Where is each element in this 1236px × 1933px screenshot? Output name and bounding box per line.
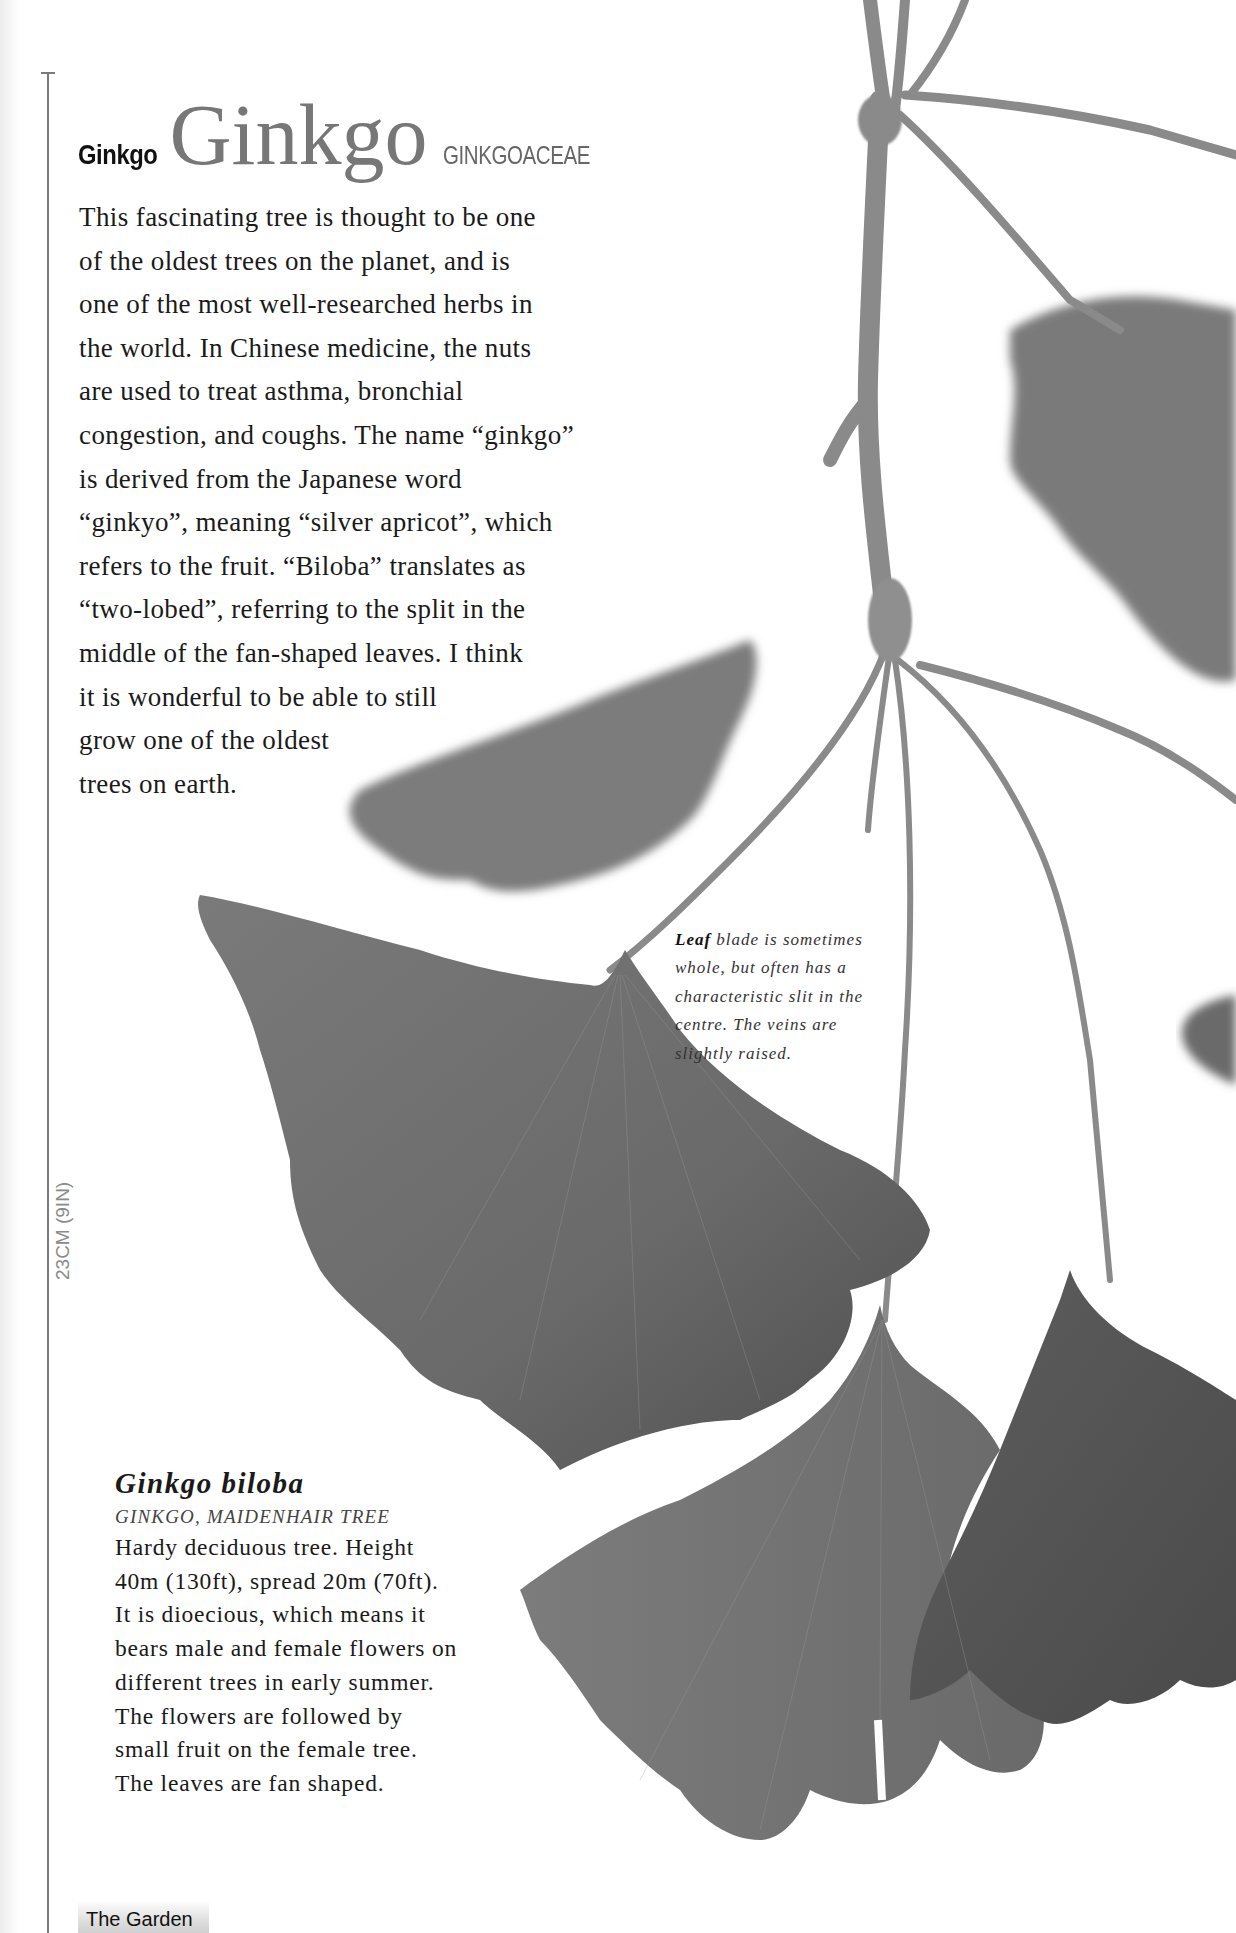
species-description: Hardy deciduous tree. Height 40m (130ft)… (115, 1531, 535, 1801)
intro-line: “two-lobed”, referring to the split in t… (79, 588, 679, 632)
species-line: small fruit on the female tree. (115, 1733, 535, 1767)
scale-label: 23CM (9IN) (52, 1182, 74, 1280)
species-line: bears male and female flowers on (115, 1632, 535, 1666)
intro-line: one of the most well-researched herbs in (79, 283, 679, 327)
intro-line: the world. In Chinese medicine, the nuts (79, 327, 679, 371)
species-entry: Ginkgo biloba GINKGO, MAIDENHAIR TREE Ha… (115, 1463, 535, 1801)
plant-heading: Ginkgo Ginkgo GINKGOACEAE (78, 92, 623, 192)
blurred-leaf-right-edge (1182, 995, 1236, 1085)
species-line: The flowers are followed by (115, 1700, 535, 1734)
caption-line: centre. The veins are (675, 1011, 915, 1039)
species-line: The leaves are fan shaped. (115, 1767, 535, 1801)
intro-line: it is wonderful to be able to still (79, 676, 679, 720)
caption-line: Leaf blade is sometimes (675, 926, 915, 954)
intro-line: congestion, and coughs. The name “ginkgo… (79, 414, 679, 458)
intro-line: middle of the fan-shaped leaves. I think (79, 632, 679, 676)
species-line: different trees in early summer. (115, 1666, 535, 1700)
intro-line: refers to the fruit. “Biloba” translates… (79, 545, 679, 589)
species-line: Hardy deciduous tree. Height (115, 1531, 535, 1565)
leaf-caption: Leaf blade is sometimes whole, but often… (675, 926, 915, 1068)
caption-lead: Leaf (675, 930, 711, 949)
intro-line: is derived from the Japanese word (79, 458, 679, 502)
caption-line: characteristic slit in the (675, 983, 915, 1011)
section-tab: The Garden (78, 1900, 209, 1933)
caption-line: slightly raised. (675, 1040, 915, 1068)
genus-name: Ginkgo (169, 92, 427, 178)
book-page: 23CM (9IN) Ginkgo Ginkgo GINKGOACEAE Thi… (0, 0, 1236, 1933)
family-name: GINKGOACEAE (443, 141, 590, 170)
caption-first-rest: blade is sometimes (711, 930, 863, 949)
intro-line: grow one of the oldest (79, 719, 679, 763)
intro-line: trees on earth. (79, 763, 679, 807)
species-common-names: GINKGO, MAIDENHAIR TREE (115, 1503, 535, 1531)
species-line: It is dioecious, which means it (115, 1598, 535, 1632)
intro-line: are used to treat asthma, bronchial (79, 370, 679, 414)
intro-paragraph: This fascinating tree is thought to be o… (79, 196, 679, 806)
intro-line: This fascinating tree is thought to be o… (79, 196, 679, 240)
scale-bar (47, 73, 49, 1933)
caption-line: whole, but often has a (675, 954, 915, 982)
blurred-leaf-upper-right (1010, 296, 1236, 681)
species-line: 40m (130ft), spread 20m (70ft). (115, 1565, 535, 1599)
common-name: Ginkgo (78, 139, 157, 171)
intro-line: “ginkyo”, meaning “silver apricot”, whic… (79, 501, 679, 545)
species-name: Ginkgo biloba (115, 1463, 535, 1503)
intro-line: of the oldest trees on the planet, and i… (79, 240, 679, 284)
